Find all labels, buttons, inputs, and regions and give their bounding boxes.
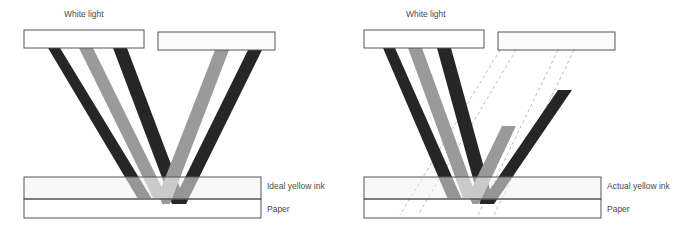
left-ink-label: Ideal yellow ink bbox=[267, 181, 325, 191]
right-paper-layer bbox=[364, 199, 601, 218]
left-source-box bbox=[24, 30, 144, 48]
right-paper-label: Paper bbox=[607, 204, 630, 214]
figure-container: White light Ideal yellow ink Paper Whit bbox=[0, 0, 693, 238]
right-ink-layer bbox=[364, 177, 601, 199]
left-paper-label: Paper bbox=[267, 204, 290, 214]
diagram-svg: White light Ideal yellow ink Paper Whit bbox=[0, 0, 693, 238]
left-white-light-label: White light bbox=[64, 9, 104, 19]
right-source-box bbox=[364, 30, 484, 48]
right-ink-label: Actual yellow ink bbox=[607, 181, 671, 191]
left-detector-box bbox=[158, 32, 275, 50]
right-white-light-label: White light bbox=[406, 9, 446, 19]
right-detector-box bbox=[498, 32, 615, 50]
left-ink-layer bbox=[24, 177, 261, 199]
left-paper-layer bbox=[24, 199, 261, 218]
